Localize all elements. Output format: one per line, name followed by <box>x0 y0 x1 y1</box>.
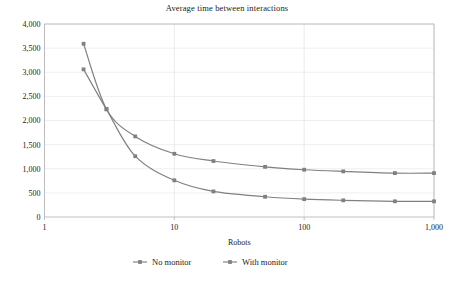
y-tick-label: 500 <box>29 189 41 198</box>
x-tick-label: 100 <box>298 223 310 232</box>
legend-item-2[interactable]: With monitor <box>223 257 288 267</box>
y-axis-tick-labels: 05001,0001,5002,0002,5003,0003,5004,000 <box>23 20 41 222</box>
data-point-marker <box>133 154 137 158</box>
chart-container: Average time between interactions 05001,… <box>0 0 454 284</box>
legend-item-1[interactable]: No monitor <box>133 257 192 267</box>
x-tick-label: 1 <box>43 223 47 232</box>
chart-plot-svg: 05001,0001,5002,0002,5003,0003,5004,000 … <box>0 0 454 284</box>
x-tick-label: 1,000 <box>425 223 443 232</box>
y-tick-label: 1,000 <box>23 165 41 174</box>
legend-label: No monitor <box>152 257 192 267</box>
data-point-marker <box>341 198 345 202</box>
y-tick-label: 2,000 <box>23 116 41 125</box>
data-point-marker <box>263 165 267 169</box>
series-line <box>84 44 434 173</box>
y-tick-label: 2,500 <box>23 92 41 101</box>
data-point-marker <box>82 42 86 46</box>
data-point-marker <box>212 190 216 194</box>
data-point-marker <box>263 195 267 199</box>
data-point-marker <box>212 159 216 163</box>
y-tick-label: 4,000 <box>23 20 41 29</box>
legend-label: With monitor <box>242 257 288 267</box>
data-point-marker <box>82 67 86 71</box>
x-tick-label: 10 <box>170 223 178 232</box>
axis-lines <box>45 24 435 220</box>
y-tick-label: 0 <box>37 213 41 222</box>
data-point-marker <box>432 171 436 175</box>
data-point-marker <box>393 199 397 203</box>
y-tick-label: 3,000 <box>23 68 41 77</box>
data-point-marker <box>302 168 306 172</box>
x-axis-tick-labels: 1101001,000 <box>43 223 444 232</box>
x-axis-title: Robots <box>228 238 251 247</box>
chart-legend: No monitorWith monitor <box>133 257 288 267</box>
legend-marker-swatch <box>228 260 232 264</box>
data-point-marker <box>105 107 109 111</box>
data-point-marker <box>432 199 436 203</box>
data-point-marker <box>302 197 306 201</box>
legend-marker-swatch <box>138 260 142 264</box>
gridlines-horizontal <box>45 24 435 193</box>
y-tick-label: 1,500 <box>23 141 41 150</box>
data-point-marker <box>341 170 345 174</box>
y-tick-label: 3,500 <box>23 44 41 53</box>
data-series-layer <box>82 42 436 203</box>
data-point-marker <box>133 135 137 139</box>
data-point-marker <box>172 152 176 156</box>
data-point-marker <box>172 178 176 182</box>
data-point-marker <box>393 171 397 175</box>
